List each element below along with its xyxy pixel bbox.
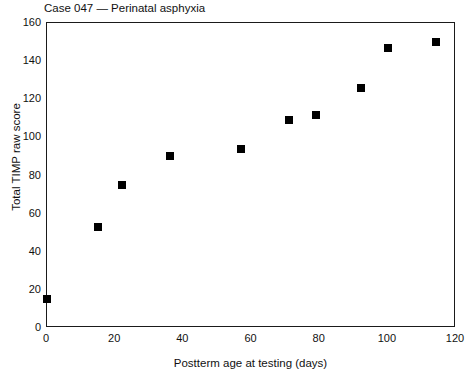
data-point: [43, 295, 51, 303]
plot-area: [46, 22, 455, 327]
data-point: [94, 223, 102, 231]
y-tick-label: 140: [1, 55, 41, 66]
y-tick-label: 0: [1, 322, 41, 333]
x-tick-label: 40: [157, 332, 207, 344]
x-tick-label: 20: [89, 332, 139, 344]
data-point: [432, 38, 440, 46]
x-tick-label: 80: [294, 332, 344, 344]
chart-title: Case 047 — Perinatal asphyxia: [44, 0, 205, 16]
x-tick-label: 0: [21, 332, 71, 344]
y-tick-label: 160: [1, 17, 41, 28]
data-point: [357, 84, 365, 92]
data-point: [118, 181, 126, 189]
y-tick-label: 20: [1, 283, 41, 294]
scatter-plot-figure: Case 047 — Perinatal asphyxia 0204060801…: [0, 0, 469, 379]
data-point: [384, 44, 392, 52]
x-tick-label: 100: [362, 332, 412, 344]
data-point: [237, 145, 245, 153]
x-tick-label: 120: [430, 332, 469, 344]
data-point: [285, 116, 293, 124]
x-axis-label: Postterm age at testing (days): [46, 357, 455, 370]
x-tick-label: 60: [226, 332, 276, 344]
data-point: [166, 152, 174, 160]
y-axis-label: Total TIMP raw score: [10, 67, 22, 247]
data-point: [312, 111, 320, 119]
